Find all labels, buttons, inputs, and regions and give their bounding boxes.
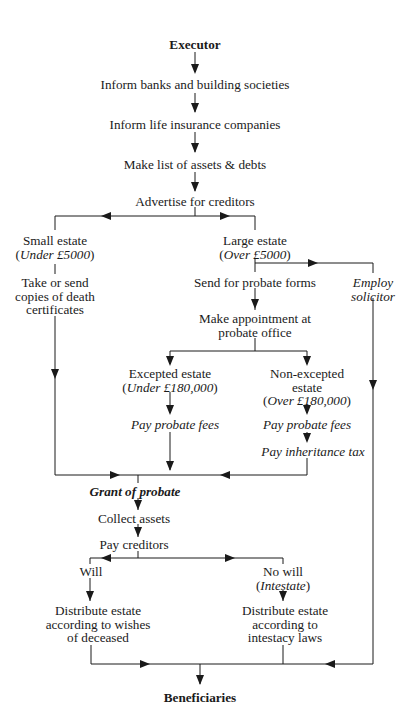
node-pay-creditors: Pay creditors: [99, 538, 168, 552]
node-non-excepted-estate: Non-excepted estate (Over £180,000): [263, 367, 351, 408]
node-advertise-creditors: Advertise for creditors: [135, 195, 254, 209]
node-pay-probate-fees-non-excepted: Pay probate fees: [263, 418, 351, 432]
node-pay-inheritance-tax: Pay inheritance tax: [261, 445, 364, 459]
node-send-probate-forms: Send for probate forms: [194, 276, 316, 290]
node-take-send-certificates: Take or send copies of death certificate…: [15, 276, 95, 317]
node-will: Will: [80, 565, 103, 579]
node-collect-assets: Collect assets: [98, 512, 170, 526]
node-inform-life-insurance: Inform life insurance companies: [109, 118, 280, 132]
node-executor: Executor: [169, 38, 220, 52]
node-large-estate: Large estate (Over £5000): [219, 234, 290, 261]
node-make-list: Make list of assets & debts: [124, 158, 266, 172]
node-no-will: No will (Intestate): [256, 565, 310, 592]
node-inform-banks: Inform banks and building societies: [101, 78, 290, 92]
node-distribute-intestate: Distribute estate according to intestacy…: [242, 604, 328, 645]
node-employ-solicitor: Employ solicitor: [351, 276, 395, 303]
node-make-appointment: Make appointment at probate office: [199, 312, 311, 339]
node-beneficiaries: Beneficiaries: [164, 691, 237, 705]
node-distribute-will: Distribute estate according to wishes of…: [46, 604, 151, 645]
node-small-estate: Small estate (Under £5000): [16, 234, 95, 261]
flowchart: Executor Inform banks and building socie…: [0, 0, 415, 720]
node-grant-of-probate: Grant of probate: [90, 485, 181, 499]
node-excepted-estate: Excepted estate (Under £180,000): [122, 367, 217, 394]
node-pay-probate-fees-excepted: Pay probate fees: [131, 418, 219, 432]
